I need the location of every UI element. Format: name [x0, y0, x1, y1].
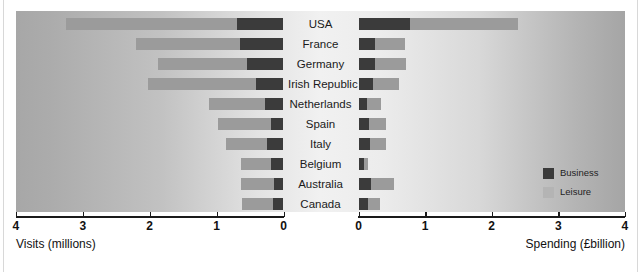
legend-swatch-business-icon: [543, 168, 554, 179]
bar-rows-container: USAFranceGermanyIrish RepublicNetherland…: [0, 11, 641, 212]
visits-axis-tick: [150, 212, 152, 217]
visits-axis-title: Visits (millions): [16, 237, 96, 251]
spending-bar: [359, 78, 400, 90]
chart-row: Irish Republic: [0, 74, 641, 94]
visits-bar: [241, 178, 283, 190]
spending-bar: [359, 98, 382, 110]
chart-row: France: [0, 34, 641, 54]
country-label: Spain: [288, 114, 353, 134]
chart-row: Italy: [0, 134, 641, 154]
visits-business-segment: [271, 158, 284, 170]
spending-bar: [359, 178, 395, 190]
spending-business-segment: [359, 38, 376, 50]
visits-bar: [226, 138, 284, 150]
visits-bar: [209, 98, 284, 110]
spending-business-segment: [359, 58, 376, 70]
visits-axis-tick-label: 1: [213, 219, 220, 233]
country-label: Netherlands: [288, 94, 353, 114]
visits-business-segment: [256, 78, 283, 90]
spending-business-segment: [359, 98, 368, 110]
spending-axis-title: Spending (£billion): [526, 237, 625, 251]
legend-label-business: Business: [560, 165, 599, 181]
spending-bar: [359, 38, 406, 50]
spending-leisure-segment: [370, 138, 387, 150]
visits-bar: [66, 18, 283, 30]
visits-leisure-segment: [209, 98, 266, 110]
spending-leisure-segment: [373, 78, 399, 90]
visits-business-segment: [271, 118, 284, 130]
visits-leisure-segment: [158, 58, 246, 70]
visits-business-segment: [273, 198, 283, 210]
spending-bar: [359, 158, 368, 170]
spending-leisure-segment: [368, 198, 380, 210]
spending-bar: [359, 198, 381, 210]
chart-row: Germany: [0, 54, 641, 74]
spending-axis-tick: [492, 212, 494, 217]
visits-axis-tick-label: 4: [13, 219, 20, 233]
country-label: Australia: [288, 174, 353, 194]
visits-business-segment: [240, 38, 283, 50]
visits-leisure-segment: [136, 38, 240, 50]
visits-bar: [218, 118, 284, 130]
visits-business-segment: [274, 178, 283, 190]
country-label: Belgium: [288, 154, 353, 174]
spending-leisure-segment: [369, 118, 386, 130]
spending-axis-tick: [558, 212, 560, 217]
visits-bar: [148, 78, 284, 90]
spending-business-segment: [359, 78, 374, 90]
spending-axis-tick-label: 2: [488, 219, 495, 233]
visits-bar: [136, 38, 283, 50]
spending-bar: [359, 118, 387, 130]
spending-business-segment: [359, 198, 369, 210]
chart-figure: USAFranceGermanyIrish RepublicNetherland…: [0, 0, 641, 272]
spending-leisure-segment: [410, 18, 519, 30]
visits-business-segment: [267, 138, 283, 150]
spending-axis-tick-label: 4: [622, 219, 629, 233]
visits-axis-tick-label: 3: [79, 219, 86, 233]
spending-axis-tick: [359, 212, 361, 217]
visits-bar: [241, 158, 283, 170]
spending-bar: [359, 18, 519, 30]
visits-axis-tick-label: 2: [146, 219, 153, 233]
spending-leisure-segment: [375, 38, 405, 50]
country-label: Irish Republic: [288, 74, 353, 94]
chart-row: Netherlands: [0, 94, 641, 114]
visits-leisure-segment: [242, 198, 273, 210]
visits-business-segment: [237, 18, 284, 30]
spending-axis-tick: [425, 212, 427, 217]
country-label: USA: [288, 14, 353, 34]
visits-axis-tick: [284, 212, 286, 217]
spending-leisure-segment: [367, 98, 381, 110]
visits-bar: [242, 198, 283, 210]
spending-leisure-segment: [371, 178, 394, 190]
country-label: Italy: [288, 134, 353, 154]
country-label: Canada: [288, 194, 353, 214]
visits-leisure-segment: [148, 78, 256, 90]
visits-leisure-segment: [218, 118, 271, 130]
spending-axis-tick-label: 0: [355, 219, 362, 233]
spending-bar: [359, 138, 387, 150]
spending-axis-tick-label: 3: [555, 219, 562, 233]
chart-row: USA: [0, 14, 641, 34]
visits-leisure-segment: [226, 138, 267, 150]
visits-business-segment: [265, 98, 283, 110]
spending-business-segment: [359, 138, 370, 150]
spending-business-segment: [359, 118, 370, 130]
visits-leisure-segment: [241, 158, 270, 170]
visits-bar: [158, 58, 283, 70]
visits-axis-tick: [83, 212, 85, 217]
country-label: Germany: [288, 54, 353, 74]
visits-leisure-segment: [66, 18, 237, 30]
spending-business-segment: [359, 18, 410, 30]
spending-business-segment: [359, 178, 372, 190]
spending-bar: [359, 58, 407, 70]
visits-axis-tick: [217, 212, 219, 217]
visits-axis-tick-label: 0: [280, 219, 287, 233]
legend-swatch-leisure-icon: [543, 187, 554, 198]
spending-axis-tick-label: 1: [422, 219, 429, 233]
chart-row: Spain: [0, 114, 641, 134]
spending-leisure-segment: [375, 58, 406, 70]
spending-axis-tick: [625, 212, 627, 217]
visits-leisure-segment: [241, 178, 274, 190]
country-label: France: [288, 34, 353, 54]
